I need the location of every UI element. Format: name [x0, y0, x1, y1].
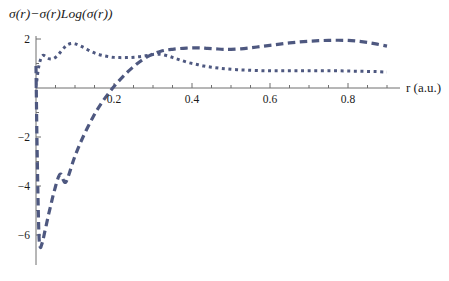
axis-lines: [36, 36, 400, 265]
x-tick-label: 0.4: [185, 93, 199, 105]
y-tick-label: −2: [4, 131, 30, 143]
x-tick-label: 0.8: [341, 93, 355, 105]
y-tick-label: −6: [4, 229, 30, 241]
plot-area: [0, 0, 449, 281]
chart-figure: σ(r)−σ(r)Log(σ(r)) r (a.u.) 0.20.40.60.8…: [0, 0, 449, 281]
x-tick-label: 0.6: [263, 93, 277, 105]
y-tick-label: 2: [4, 33, 30, 45]
x-tick-label: 0.2: [107, 93, 121, 105]
series-paths: [36, 40, 387, 247]
y-tick-label: −4: [4, 180, 30, 192]
